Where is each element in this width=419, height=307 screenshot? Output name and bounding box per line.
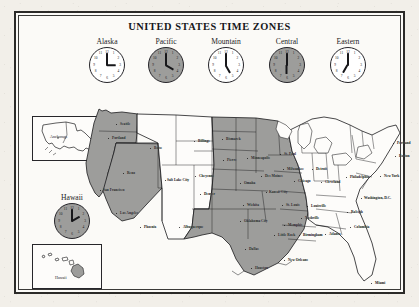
city-dot <box>361 198 362 199</box>
city-dot <box>140 227 141 228</box>
city-dot <box>245 249 246 250</box>
city-dot <box>194 141 195 142</box>
city-dot <box>283 169 284 170</box>
city-label: San Francisco <box>103 189 125 193</box>
city-label: Little Rock <box>278 234 295 238</box>
city-label: Houston <box>255 267 268 271</box>
city-dot <box>108 138 109 139</box>
city-dot <box>274 235 275 236</box>
city-dot <box>116 124 117 125</box>
city-dot <box>346 177 347 178</box>
city-label: Cleveland <box>325 181 340 185</box>
city-label: Philadelphia <box>350 176 369 180</box>
city-dot <box>371 283 372 284</box>
city-label: Nashville <box>305 217 319 221</box>
city-label: Columbia <box>354 226 369 230</box>
city-dot <box>282 205 283 206</box>
city-label: Seattle <box>120 123 130 127</box>
city-dot <box>294 181 295 182</box>
city-dot <box>223 160 224 161</box>
city-dot <box>299 235 300 236</box>
city-dot <box>123 173 124 174</box>
city-label: New Orleans <box>288 259 308 263</box>
city-dot <box>261 176 262 177</box>
city-label: Minneapolis <box>251 157 270 161</box>
city-label: Detroit <box>316 168 327 172</box>
city-label: Pierre <box>227 159 237 163</box>
city-label: Oklahoma City <box>244 220 268 224</box>
city-label: Wichita <box>247 204 259 208</box>
city-label: Boise <box>154 147 162 151</box>
city-label: Dallas <box>249 248 259 252</box>
city-label: Memphis <box>288 224 302 228</box>
map-frame: UNITED STATES TIME ZONES Alaska121234567… <box>14 11 405 294</box>
city-dot <box>195 176 196 177</box>
city-dot <box>179 227 180 228</box>
city-dot <box>393 143 394 144</box>
city-dot <box>247 158 248 159</box>
city-label: Washington, D.C. <box>364 197 391 201</box>
city-label: Atlanta <box>329 233 341 237</box>
city-label: Salt Lake City <box>167 179 189 183</box>
map-page: UNITED STATES TIME ZONES Alaska121234567… <box>0 0 419 307</box>
city-label: St. Paul <box>284 153 296 157</box>
city-dot <box>301 218 302 219</box>
city-dot <box>165 180 166 181</box>
city-dot <box>243 205 244 206</box>
city-label: Des Moines <box>265 175 283 179</box>
city-label: Cheyenne <box>199 175 214 179</box>
city-dot <box>350 227 351 228</box>
city-dot <box>150 148 151 149</box>
city-dot <box>347 212 348 213</box>
city-label: Birmingham <box>303 234 323 238</box>
city-label: Billings <box>198 140 210 144</box>
city-label: Phoenix <box>144 226 156 230</box>
city-label: Reno <box>127 172 135 176</box>
city-dot <box>100 190 101 191</box>
city-dot <box>116 213 117 214</box>
city-dot <box>222 139 223 140</box>
city-label: Milwaukee <box>287 168 304 172</box>
city-dot <box>312 169 313 170</box>
city-dot <box>266 192 267 193</box>
city-label: Portland <box>112 137 126 141</box>
city-label: Louisville <box>311 205 326 209</box>
city-dot <box>395 156 396 157</box>
city-label: Denver <box>204 193 215 197</box>
city-dot <box>240 183 241 184</box>
city-label: Albuquerque <box>183 226 203 230</box>
city-label: Los Angeles <box>120 212 138 216</box>
city-dot <box>251 268 252 269</box>
city-label: St. Louis <box>286 204 300 208</box>
city-label: New York <box>384 175 399 179</box>
city-label: Raleigh <box>351 211 363 215</box>
city-label: Boston <box>399 155 410 159</box>
city-dot <box>325 234 326 235</box>
city-label: Chicago <box>298 180 311 184</box>
city-label: Bismarck <box>226 138 241 142</box>
city-dot <box>307 206 308 207</box>
city-dot <box>284 225 285 226</box>
city-dot <box>284 260 285 261</box>
city-label: Miami <box>375 282 385 286</box>
city-label-layer: SeattlePortlandBoiseRenoSan FranciscoLos… <box>16 13 403 292</box>
city-dot <box>380 176 381 177</box>
city-label: Kansas City <box>269 191 288 195</box>
city-label: Omaha <box>244 182 255 186</box>
city-dot <box>200 194 201 195</box>
city-dot <box>321 182 322 183</box>
city-dot <box>280 154 281 155</box>
city-label: Portland <box>397 142 411 146</box>
city-dot <box>240 221 241 222</box>
